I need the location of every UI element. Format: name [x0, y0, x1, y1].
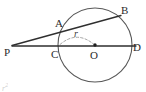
label-point-c: C	[51, 48, 58, 60]
geometry-figure: P A B C D O r r2	[0, 0, 146, 92]
geometry-canvas: P A B C D O r	[0, 0, 146, 92]
label-point-p: P	[4, 46, 10, 58]
label-point-d: D	[133, 41, 141, 53]
corner-artifact-exponent: 2	[5, 82, 8, 88]
label-radius-r: r	[74, 28, 78, 39]
corner-text-artifact: r2	[2, 82, 8, 91]
label-point-a: A	[55, 17, 63, 29]
label-point-o: O	[90, 49, 98, 61]
label-point-b: B	[121, 4, 128, 16]
center-point-dot	[93, 43, 96, 46]
